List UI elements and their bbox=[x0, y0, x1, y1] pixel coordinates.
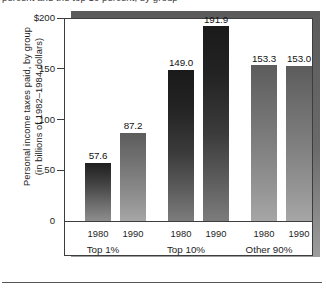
y-tick-mark-200 bbox=[57, 18, 64, 19]
truncated-caption: percent and the top 10 percent, by group bbox=[0, 0, 326, 7]
y-tick-mark-150 bbox=[57, 68, 64, 69]
y-tick-0: 0 bbox=[6, 215, 64, 227]
bar-top10-1980[interactable] bbox=[168, 70, 194, 221]
x-tick-other90-1980: 1980 bbox=[244, 228, 284, 239]
bar-top10-1990[interactable] bbox=[203, 26, 229, 221]
y-tick-100: 100 bbox=[6, 114, 64, 126]
plot-area: 57.6 87.2 149.0 191.9 153.3 153.0 1980 1… bbox=[64, 18, 313, 256]
bar-value-top10-1990: 191.9 bbox=[193, 14, 239, 25]
y-tick-150: 150 bbox=[6, 63, 64, 75]
x-tick-other90-1990: 1990 bbox=[279, 228, 319, 239]
y-axis-ticks: $200 150 100 50 0 bbox=[0, 18, 64, 256]
bar-value-other90-1990: 153.0 bbox=[276, 53, 322, 64]
bar-other90-1980[interactable] bbox=[251, 65, 277, 221]
bar-chart-figure: Personal income taxes paid, by group (in… bbox=[0, 7, 326, 269]
bar-value-top1-1980: 57.6 bbox=[75, 150, 121, 161]
y-tick-50: 50 bbox=[6, 164, 64, 176]
x-tick-top10-1990: 1990 bbox=[196, 228, 236, 239]
x-group-label-other90: Other 90% bbox=[224, 244, 314, 255]
y-tick-mark-100 bbox=[57, 119, 64, 120]
x-tick-top10-1980: 1980 bbox=[161, 228, 201, 239]
y-tick-200: $200 bbox=[6, 12, 64, 24]
x-group-label-top10: Top 10% bbox=[141, 244, 231, 255]
x-group-label-top1: Top 1% bbox=[58, 244, 148, 255]
bar-top1-1990[interactable] bbox=[120, 133, 146, 222]
y-tick-label-0: 0 bbox=[50, 215, 64, 226]
x-tick-top1-1980: 1980 bbox=[78, 228, 118, 239]
x-tick-top1-1990: 1990 bbox=[113, 228, 153, 239]
y-tick-mark-50 bbox=[57, 170, 64, 171]
bar-other90-1990[interactable] bbox=[286, 66, 312, 221]
bar-value-top10-1980: 149.0 bbox=[158, 57, 204, 68]
bar-top1-1980[interactable] bbox=[85, 163, 111, 222]
bar-value-top1-1990: 87.2 bbox=[110, 120, 156, 131]
bottom-divider-rule bbox=[2, 282, 322, 283]
